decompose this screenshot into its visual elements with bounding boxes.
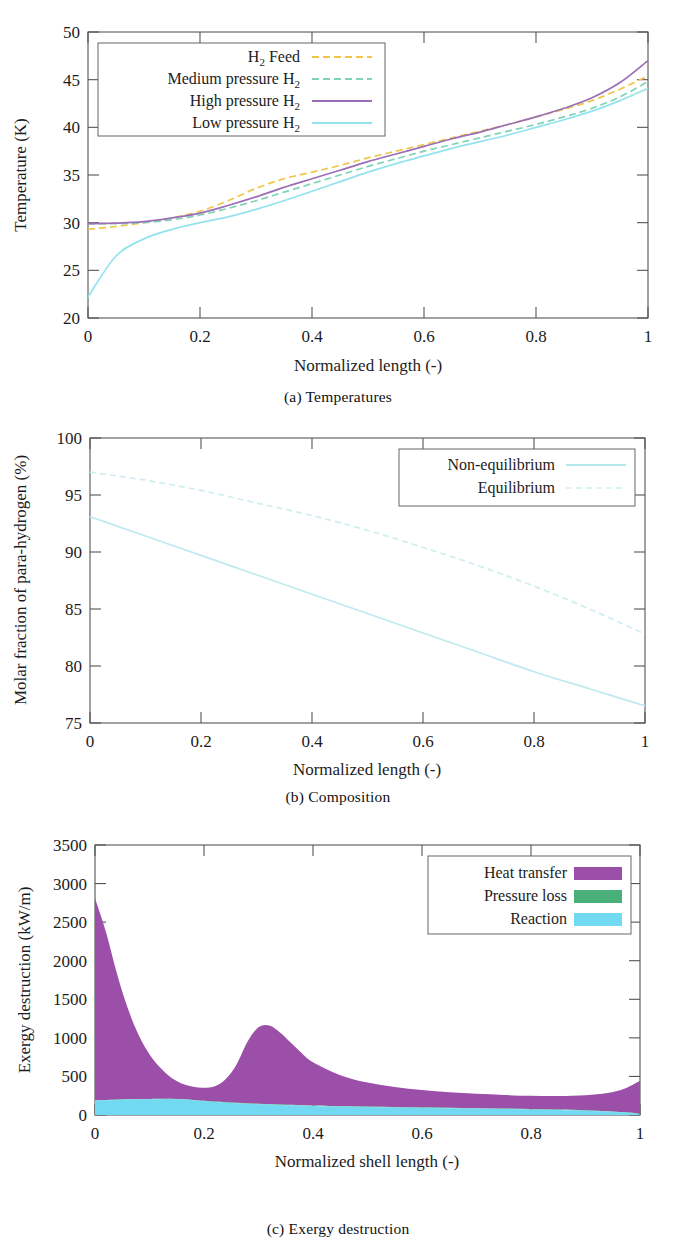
x-tick-label: 0.4	[301, 327, 323, 346]
legend-label-pressure-loss: Pressure loss	[484, 887, 567, 904]
y-tick-label: 0	[79, 1106, 88, 1125]
subfigure-caption-b: (b) Composition	[0, 788, 676, 806]
x-axis-tick-labels: 0 0.2 0.4 0.6 0.8 1	[91, 1124, 645, 1143]
y-tick-label: 2000	[53, 952, 87, 971]
composition-chart: 75 80 85 90 95 100	[0, 420, 676, 788]
y-axis-tick-labels: 0 500 1000 1500 2000 2500 3000 3500	[53, 836, 87, 1125]
x-axis-tick-labels: 0 0.2 0.4 0.6 0.8 1	[84, 327, 653, 346]
y-tick-label: 1500	[53, 990, 87, 1009]
legend-label-non-equilibrium: Non-equilibrium	[447, 456, 555, 474]
x-axis-tick-labels: 0 0.2 0.4 0.6 0.8 1	[86, 732, 650, 751]
legend-temperatures: H2 Feed Medium pressure H2 High pressure…	[98, 43, 385, 136]
x-tick-label: 0.8	[523, 732, 544, 751]
subfigure-exergy-destruction: 0 500 1000 1500 2000 2500 3000 3500	[0, 820, 676, 1258]
y-tick-label: 30	[63, 214, 80, 233]
figure-container: 20 25 30 35 40 45 50	[0, 0, 676, 1258]
legend-swatch-reaction	[574, 913, 622, 926]
x-tick-label: 0.4	[302, 1124, 324, 1143]
x-tick-label: 0.8	[520, 1124, 541, 1143]
x-tick-label: 0.4	[301, 732, 323, 751]
x-tick-label: 0.2	[193, 1124, 214, 1143]
y-tick-label: 75	[65, 714, 82, 733]
x-tick-label: 0.6	[412, 732, 433, 751]
x-tick-label: 1	[636, 1124, 645, 1143]
y-tick-label: 35	[63, 166, 80, 185]
y-axis-title: Temperature (K)	[11, 118, 30, 232]
x-tick-label: 0.8	[525, 327, 546, 346]
x-axis-title: Normalized length (-)	[294, 356, 442, 375]
subfigure-temperatures: 20 25 30 35 40 45 50	[0, 0, 676, 420]
legend-label-heat-transfer: Heat transfer	[484, 864, 568, 881]
x-tick-label: 0.6	[413, 327, 434, 346]
legend-label-reaction: Reaction	[510, 910, 567, 927]
y-tick-label: 3000	[53, 875, 87, 894]
y-tick-label: 100	[57, 429, 83, 448]
x-tick-label: 0.2	[190, 732, 211, 751]
subfigure-caption-c: (c) Exergy destruction	[0, 1220, 676, 1238]
x-axis-title: Normalized length (-)	[293, 760, 441, 779]
y-tick-label: 500	[62, 1067, 88, 1086]
x-tick-label: 0.6	[411, 1124, 432, 1143]
x-tick-label: 0	[91, 1124, 100, 1143]
x-axis-title: Normalized shell length (-)	[275, 1152, 460, 1171]
y-axis-title: Molar fraction of para-hydrogen (%)	[11, 455, 30, 705]
y-tick-label: 40	[63, 118, 80, 137]
y-tick-label: 25	[63, 261, 80, 280]
y-tick-label: 95	[65, 486, 82, 505]
legend-swatch-heat-transfer	[574, 867, 622, 880]
y-tick-label: 85	[65, 600, 82, 619]
y-axis-tick-labels: 75 80 85 90 95 100	[57, 429, 83, 733]
subfigure-caption-a: (a) Temperatures	[0, 388, 676, 406]
y-tick-label: 90	[65, 543, 82, 562]
temperatures-chart: 20 25 30 35 40 45 50	[0, 0, 676, 388]
legend-composition: Non-equilibrium Equilibrium	[399, 449, 635, 506]
y-axis-title: Exergy destruction (kW/m)	[15, 887, 34, 1074]
x-tick-label: 0	[84, 327, 93, 346]
y-tick-label: 20	[63, 309, 80, 328]
y-tick-label: 45	[63, 71, 80, 90]
y-axis-tick-labels: 20 25 30 35 40 45 50	[63, 23, 80, 328]
x-tick-label: 0.2	[189, 327, 210, 346]
x-tick-label: 1	[641, 732, 650, 751]
x-tick-label: 0	[86, 732, 95, 751]
y-tick-label: 2500	[53, 913, 87, 932]
x-tick-label: 1	[644, 327, 653, 346]
exergy-destruction-chart: 0 500 1000 1500 2000 2500 3000 3500	[0, 820, 676, 1220]
y-tick-label: 50	[63, 23, 80, 42]
legend-swatch-pressure-loss	[574, 890, 622, 903]
subfigure-composition: 75 80 85 90 95 100	[0, 420, 676, 820]
y-tick-label: 1000	[53, 1029, 87, 1048]
y-tick-label: 3500	[53, 836, 87, 855]
legend-exergy: Heat transfer Pressure loss Reaction	[428, 856, 631, 934]
y-tick-label: 80	[65, 657, 82, 676]
legend-label-equilibrium: Equilibrium	[478, 479, 556, 497]
